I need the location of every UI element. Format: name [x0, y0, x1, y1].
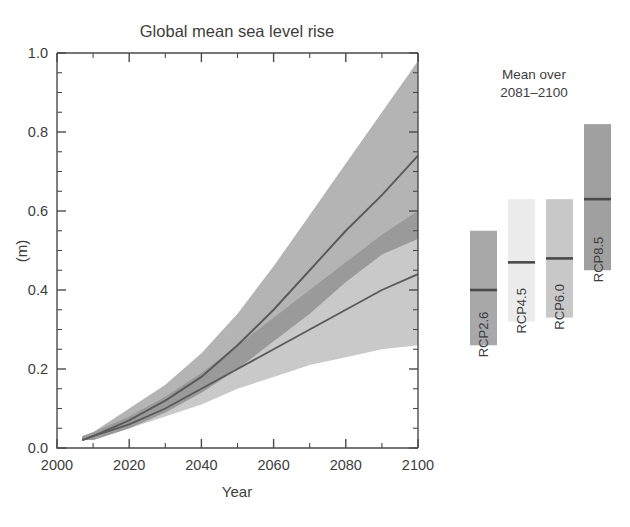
x-tick-label: 2080 [330, 457, 362, 473]
legend-label-rcp8-5: RCP8.5 [591, 237, 606, 283]
x-axis-title: Year [222, 483, 252, 500]
x-tick-label: 2060 [257, 457, 289, 473]
legend-label-rcp6-0: RCP6.0 [553, 284, 568, 330]
y-tick-label: 0.8 [28, 124, 48, 140]
legend-heading-line-1: Mean over [502, 67, 566, 82]
x-tick-label: 2000 [41, 457, 73, 473]
y-tick-label: 1.0 [28, 45, 48, 61]
chart-title: Global mean sea level rise [140, 22, 334, 40]
chart-canvas: Global mean sea level rise 0.00.20.40.60… [0, 0, 630, 527]
y-tick-label: 0.4 [28, 282, 48, 298]
y-tick-label: 0.2 [28, 361, 48, 377]
legend-label-rcp4-5: RCP4.5 [515, 288, 530, 334]
legend-heading-line-2: 2081–2100 [500, 85, 568, 100]
y-tick-label: 0.0 [28, 440, 48, 456]
x-tick-label: 2100 [402, 457, 434, 473]
x-tick-label: 2040 [185, 457, 217, 473]
legend-label-rcp2-6: RCP2.6 [477, 312, 492, 358]
x-tick-label: 2020 [113, 457, 145, 473]
y-tick-label: 0.6 [28, 203, 48, 219]
sea-level-rise-figure: Global mean sea level rise 0.00.20.40.60… [0, 0, 630, 527]
y-axis-title: (m) [13, 240, 30, 263]
